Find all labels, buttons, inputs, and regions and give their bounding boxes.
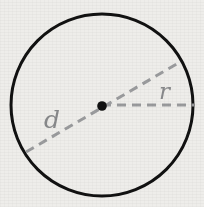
circle-diagram-figure: d r <box>0 0 204 207</box>
radius-label: r <box>159 80 170 103</box>
center-dot <box>97 101 107 111</box>
diameter-label: d <box>44 107 60 132</box>
diagram-canvas <box>0 0 204 207</box>
